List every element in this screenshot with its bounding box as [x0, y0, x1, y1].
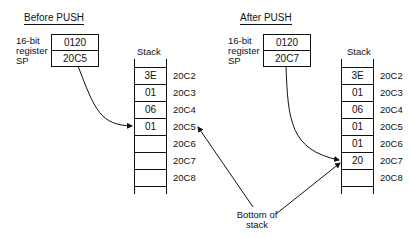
arrows — [0, 0, 412, 238]
before-sp-pointer-arrow — [78, 66, 132, 126]
after-bottom-arrow — [276, 163, 340, 214]
before-bottom-arrow — [198, 127, 253, 207]
after-sp-pointer-arrow — [286, 66, 339, 160]
